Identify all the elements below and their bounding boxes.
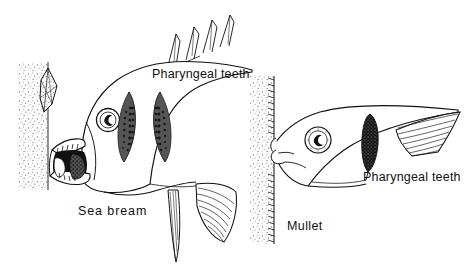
dorsal-spines xyxy=(168,15,234,66)
label-sea-bream: Sea bream xyxy=(78,205,147,218)
mullet-eye xyxy=(305,127,331,153)
label-pharyngeal-teeth-mullet: Pharyngeal teeth xyxy=(363,171,461,184)
pectoral-fin xyxy=(196,183,237,242)
mullet-pharyngeal-teeth xyxy=(362,114,378,172)
sea-bream-open-mouth xyxy=(49,139,90,185)
sea-bream-figure xyxy=(49,15,252,262)
figure-illustration xyxy=(0,0,470,272)
label-mullet: Mullet xyxy=(287,220,323,233)
label-pharyngeal-teeth-sea-bream: Pharyngeal teeth xyxy=(152,68,250,81)
mullet-ventral-line xyxy=(308,184,366,187)
sea-bream-eye xyxy=(97,109,120,132)
figure-root: Pharyngeal teeth Sea bream Mullet Pharyn… xyxy=(0,0,470,272)
left-substrate-column xyxy=(18,62,57,190)
right-substrate-column xyxy=(250,76,274,244)
pelvic-fin xyxy=(168,190,180,262)
